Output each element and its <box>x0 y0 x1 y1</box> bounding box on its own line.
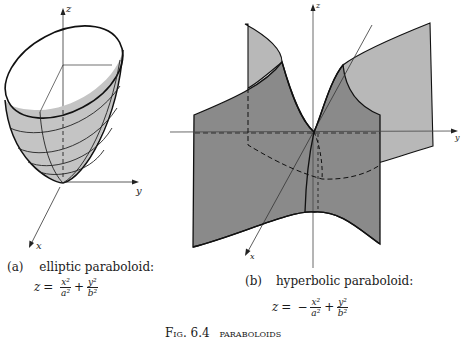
equation-lhs: z <box>34 280 40 294</box>
axis-label-z-a: z <box>66 3 71 14</box>
fraction-x: x²a² <box>310 297 321 318</box>
fraction-x: x²a² <box>60 277 71 298</box>
axis-label-y-b: y <box>455 133 460 142</box>
panel-a-tag: (a) <box>7 260 24 274</box>
equals-sign: = <box>43 280 53 294</box>
figure-caption: Fig. 6.4 paraboloids <box>165 326 281 340</box>
equals-sign: = <box>281 300 291 314</box>
equation-lhs: z <box>272 300 278 314</box>
panel-b-equation: z=−x²a²+y²b² <box>272 297 348 318</box>
plus-sign: + <box>324 300 334 314</box>
axis-label-x-a: x <box>36 240 42 251</box>
fraction-y: y²b² <box>337 297 348 318</box>
panel-a-name: elliptic paraboloid: <box>39 260 154 274</box>
fraction-y: y²b² <box>87 277 98 298</box>
axis-label-y-a: y <box>136 185 142 196</box>
figure-caption-text: paraboloids <box>219 326 281 340</box>
panel-a-title: (a) elliptic paraboloid: <box>7 260 154 274</box>
panel-a-equation: z= x²a²+y²b² <box>34 277 98 298</box>
axis-label-x-b: x <box>250 252 255 261</box>
panel-b-title: (b) hyperbolic paraboloid: <box>245 274 413 288</box>
axis-label-z-b: z <box>316 1 320 10</box>
panel-b-name: hyperbolic paraboloid: <box>276 274 413 288</box>
minus-sign: − <box>297 300 307 314</box>
figure-number: Fig. 6.4 <box>165 326 210 340</box>
plus-sign: + <box>74 280 84 294</box>
panel-b-tag: (b) <box>245 274 262 288</box>
